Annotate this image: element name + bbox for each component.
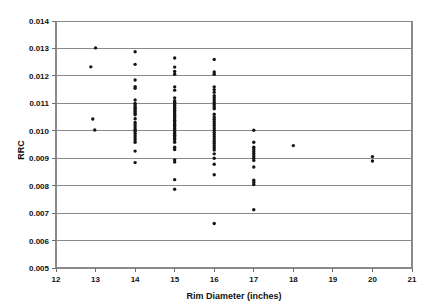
data-point: [252, 183, 255, 186]
data-point: [91, 117, 94, 120]
y-tick-label: 0.014: [29, 17, 50, 26]
y-tick-label: 0.012: [29, 72, 50, 81]
y-tick-label: 0.010: [29, 127, 50, 136]
x-tick-label: 16: [210, 275, 219, 284]
data-point: [133, 117, 136, 120]
data-point: [213, 152, 216, 155]
data-point: [133, 78, 136, 81]
data-point: [213, 163, 216, 166]
data-point: [213, 157, 216, 160]
data-point: [133, 87, 136, 90]
chart-canvas: 12131415161718192021 0.0050.0060.0070.00…: [0, 0, 432, 308]
data-point: [94, 46, 97, 49]
data-point: [133, 149, 136, 152]
scatter-chart-figure: 12131415161718192021 0.0050.0060.0070.00…: [0, 0, 432, 308]
data-point: [213, 107, 216, 110]
data-point: [173, 73, 176, 76]
data-point: [292, 144, 295, 147]
data-point: [133, 50, 136, 53]
data-point: [133, 63, 136, 66]
x-tick-label: 17: [249, 275, 258, 284]
y-axis-title: RRC: [16, 140, 26, 160]
y-tick-label: 0.006: [29, 237, 50, 246]
y-tick-label: 0.013: [29, 44, 50, 53]
y-tick-label: 0.009: [29, 154, 50, 163]
x-axis-tick-labels: 12131415161718192021: [52, 275, 417, 284]
x-axis-title: Rim Diameter (inches): [186, 291, 281, 301]
data-points: [89, 46, 374, 225]
data-point: [213, 73, 216, 76]
x-tick-label: 20: [368, 275, 377, 284]
data-point: [252, 159, 255, 162]
data-point: [133, 141, 136, 144]
data-point: [213, 58, 216, 61]
data-point: [173, 88, 176, 91]
data-point: [213, 173, 216, 176]
plot-area-border: [56, 21, 412, 268]
data-point: [213, 148, 216, 151]
data-point: [252, 208, 255, 211]
data-point: [89, 65, 92, 68]
data-point: [173, 148, 176, 151]
data-point: [173, 141, 176, 144]
y-axis-tick-labels: 0.0050.0060.0070.0080.0090.0100.0110.012…: [29, 17, 50, 273]
data-point: [213, 91, 216, 94]
x-tick-label: 14: [131, 275, 140, 284]
data-point: [173, 85, 176, 88]
data-point: [133, 161, 136, 164]
x-tick-label: 13: [91, 275, 100, 284]
x-tick-label: 15: [170, 275, 179, 284]
x-tick-label: 21: [408, 275, 417, 284]
data-point: [213, 222, 216, 225]
data-point: [133, 98, 136, 101]
x-tick-label: 12: [52, 275, 61, 284]
gridlines: [56, 21, 412, 268]
x-tick-label: 19: [328, 275, 337, 284]
data-point: [371, 159, 374, 162]
data-point: [93, 128, 96, 131]
x-tick-label: 18: [289, 275, 298, 284]
data-point: [173, 160, 176, 163]
data-point: [173, 65, 176, 68]
data-point: [252, 129, 255, 132]
y-tick-label: 0.007: [29, 209, 50, 218]
data-point: [252, 141, 255, 144]
data-point: [133, 113, 136, 116]
data-point: [173, 188, 176, 191]
y-tick-label: 0.008: [29, 182, 50, 191]
y-tick-label: 0.005: [29, 264, 50, 273]
data-point: [173, 56, 176, 59]
data-point: [252, 165, 255, 168]
data-point: [371, 155, 374, 158]
y-tick-label: 0.011: [29, 99, 49, 108]
data-point: [173, 178, 176, 181]
